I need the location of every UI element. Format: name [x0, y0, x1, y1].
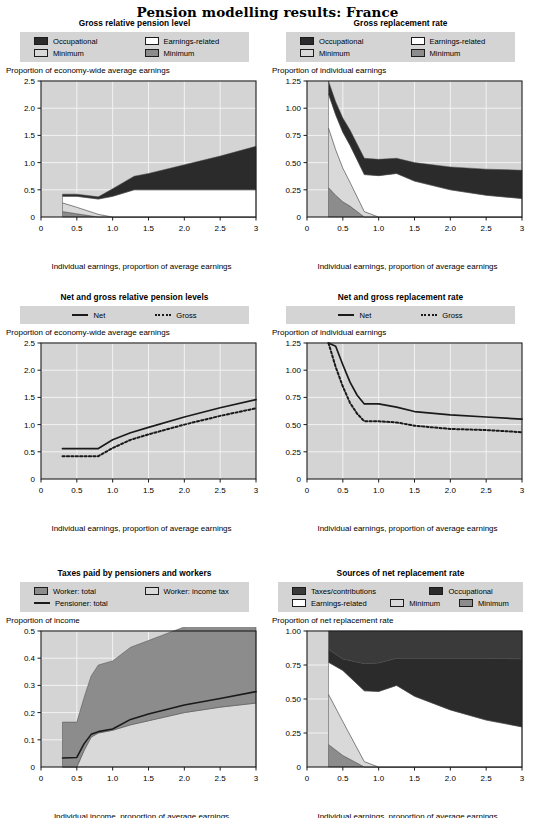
panel-title: Gross relative pension level	[2, 18, 267, 30]
legend-item-minimum-medium[interactable]: Minimum	[455, 597, 519, 609]
y-axis-label: Proportion of net replacement rate	[272, 615, 533, 626]
svg-text:1.0: 1.0	[24, 421, 36, 430]
svg-text:2.5: 2.5	[215, 224, 227, 233]
svg-text:0: 0	[39, 224, 44, 233]
swatch-taxes-contributions-icon	[292, 587, 306, 595]
svg-text:0.25: 0.25	[285, 729, 301, 738]
svg-text:1.5: 1.5	[24, 131, 36, 140]
legend-item-pensioner-total[interactable]: Pensioner: total	[24, 597, 135, 609]
legend-item-worker-total[interactable]: Worker: total	[24, 585, 135, 597]
legend-item-minimum-medium[interactable]: Minimum	[401, 47, 512, 59]
swatch-occupational-icon	[34, 37, 48, 45]
svg-text:1.00: 1.00	[285, 104, 301, 113]
legend-label: Net	[93, 310, 105, 321]
legend-label: Occupational	[319, 36, 363, 47]
svg-text:0.5: 0.5	[71, 774, 83, 783]
legend-label: Pensioner: total	[55, 598, 108, 609]
legend-item-earnings-related[interactable]: Earnings-related	[401, 35, 512, 47]
svg-text:0.50: 0.50	[285, 695, 301, 704]
svg-text:0.50: 0.50	[285, 421, 301, 430]
svg-text:0.5: 0.5	[337, 486, 349, 495]
panel-gross-replacement-rate: Gross replacement rate Occupational Earn…	[268, 18, 533, 273]
legend-item-minimum-medium[interactable]: Minimum	[135, 47, 246, 59]
chart-svg: 00.250.500.751.0000.51.01.52.02.53	[268, 627, 533, 792]
panel-sources-net-replacement-rate: Sources of net replacement rate Taxes/co…	[268, 568, 533, 818]
svg-text:2.0: 2.0	[24, 366, 36, 375]
plot-area: 00.10.20.30.40.500.51.01.52.02.53	[2, 627, 267, 812]
line-solid-icon	[34, 602, 50, 604]
swatch-minimum-light-icon	[390, 599, 404, 607]
x-axis-label: Individual earnings, proportion of avera…	[268, 811, 533, 818]
x-axis-label: Individual earnings, proportion of avera…	[268, 523, 533, 534]
legend-item-occupational[interactable]: Occupational	[290, 35, 401, 47]
swatch-minimum-light-icon	[34, 49, 48, 57]
svg-text:2.5: 2.5	[481, 774, 493, 783]
swatch-minimum-medium-icon	[459, 599, 473, 607]
legend-item-minimum-light[interactable]: Minimum	[386, 597, 455, 609]
svg-text:2.5: 2.5	[481, 224, 493, 233]
legend-net-gross-replacement-rate: Net Gross	[286, 306, 515, 324]
svg-text:1.00: 1.00	[285, 627, 301, 636]
line-dotted-icon	[155, 314, 171, 316]
legend-net-gross-relative-pension-levels: Net Gross	[20, 306, 249, 324]
legend-item-gross[interactable]: Gross	[149, 309, 202, 321]
svg-text:0.5: 0.5	[337, 774, 349, 783]
svg-text:3: 3	[254, 486, 259, 495]
y-axis-label: Proportion of economy-wide average earni…	[6, 65, 267, 76]
line-solid-icon	[338, 314, 354, 316]
legend-item-taxes-contributions[interactable]: Taxes/contributions	[282, 585, 419, 597]
svg-text:0.5: 0.5	[71, 224, 83, 233]
legend-item-net[interactable]: Net	[332, 309, 377, 321]
svg-text:0.75: 0.75	[285, 661, 301, 670]
y-axis-label: Proportion of individual earnings	[272, 327, 533, 338]
svg-text:1.0: 1.0	[107, 486, 119, 495]
svg-text:2.5: 2.5	[24, 339, 36, 348]
svg-text:2.0: 2.0	[179, 224, 191, 233]
plot-area: 00.250.500.751.0000.51.01.52.02.53	[268, 627, 533, 812]
svg-text:0.3: 0.3	[24, 681, 36, 690]
svg-text:0.50: 0.50	[285, 159, 301, 168]
svg-text:0.5: 0.5	[24, 448, 36, 457]
plot-area: 00.250.500.751.001.2500.51.01.52.02.53	[268, 339, 533, 524]
svg-text:0: 0	[297, 475, 302, 484]
legend-taxes-paid: Worker: total Worker: income tax Pension…	[20, 582, 249, 612]
panel-title: Gross replacement rate	[268, 18, 533, 30]
svg-text:1.0: 1.0	[107, 774, 119, 783]
legend-label: Minimum	[319, 48, 350, 59]
y-axis-label: Proportion of income	[6, 615, 267, 626]
legend-item-occupational[interactable]: Occupational	[24, 35, 135, 47]
x-axis-label: Individual earnings, proportion of avera…	[2, 523, 267, 534]
legend-item-worker-income-tax[interactable]: Worker: income tax	[135, 585, 246, 597]
legend-item-earnings-related[interactable]: Earnings-related	[282, 597, 386, 609]
svg-text:2.0: 2.0	[179, 774, 191, 783]
svg-text:2.0: 2.0	[445, 224, 457, 233]
svg-text:0.75: 0.75	[285, 393, 301, 402]
svg-text:1.5: 1.5	[143, 486, 155, 495]
panel-title: Taxes paid by pensioners and workers	[2, 568, 267, 580]
svg-text:3: 3	[520, 224, 525, 233]
swatch-earnings-related-icon	[145, 37, 159, 45]
legend-item-gross[interactable]: Gross	[415, 309, 468, 321]
legend-item-earnings-related[interactable]: Earnings-related	[135, 35, 246, 47]
legend-gross-replacement-rate: Occupational Earnings-related Minimum Mi…	[286, 32, 515, 62]
svg-text:0: 0	[297, 763, 302, 772]
svg-text:1.5: 1.5	[409, 224, 421, 233]
swatch-minimum-light-icon	[300, 49, 314, 57]
y-axis-label: Proportion of economy-wide average earni…	[6, 327, 267, 338]
line-solid-icon	[72, 314, 88, 316]
legend-label: Taxes/contributions	[311, 586, 376, 597]
legend-label: Minimum	[409, 598, 440, 609]
plot-area: 00.51.01.52.02.500.51.01.52.02.53	[2, 339, 267, 524]
swatch-earnings-related-icon	[411, 37, 425, 45]
svg-text:2.5: 2.5	[215, 774, 227, 783]
legend-label: Minimum	[53, 48, 84, 59]
svg-text:2.5: 2.5	[24, 77, 36, 86]
swatch-occupational-icon	[300, 37, 314, 45]
svg-text:0.4: 0.4	[24, 654, 36, 663]
legend-item-net[interactable]: Net	[66, 309, 111, 321]
panel-title: Net and gross relative pension levels	[2, 292, 267, 304]
x-axis-label: Individual income, proportion of average…	[2, 811, 267, 818]
legend-item-minimum-light[interactable]: Minimum	[290, 47, 401, 59]
legend-item-occupational[interactable]: Occupational	[419, 585, 519, 597]
legend-item-minimum-light[interactable]: Minimum	[24, 47, 135, 59]
